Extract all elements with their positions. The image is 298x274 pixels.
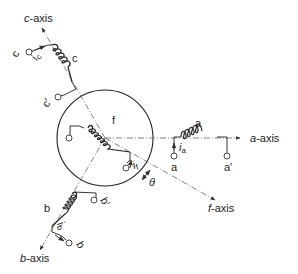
terminal-a-prime <box>224 153 230 159</box>
f-axis-label: f-axis <box>208 202 235 214</box>
terminal-a-prime-label: a′ <box>224 161 232 173</box>
terminal-c-prime-label: c′ <box>39 96 53 109</box>
synchronous-machine-diagram: a-axis c-axis b-axis f-axis a ia a a′ c … <box>0 0 298 274</box>
terminal-b-prime-label: b′ <box>98 195 112 208</box>
current-arrow-b <box>55 235 64 241</box>
winding-b-label: b <box>44 202 50 214</box>
f-axis-line <box>105 138 215 200</box>
current-arrow-c <box>35 46 45 50</box>
current-if-label: if <box>131 158 141 173</box>
terminal-b-label: b <box>74 239 87 250</box>
winding-c-label: c <box>72 52 78 64</box>
terminal-a-label: a <box>171 161 178 173</box>
winding-f <box>66 125 131 171</box>
terminal-f-end <box>123 165 129 171</box>
winding-a-label: a <box>195 117 202 129</box>
terminal-b <box>66 240 72 246</box>
theta-label: θ <box>149 176 155 188</box>
terminal-f-start <box>66 135 72 141</box>
winding-b <box>52 192 97 246</box>
b-axis-label: b-axis <box>20 252 50 264</box>
current-ia-label: ia <box>179 141 186 155</box>
winding-c <box>26 44 76 100</box>
terminal-c-label: c <box>8 48 21 59</box>
current-ib-label: ib <box>54 219 70 232</box>
winding-f-label: f <box>112 114 116 126</box>
terminal-c-prime <box>55 94 61 100</box>
a-axis-label: a-axis <box>250 132 280 144</box>
terminal-b-prime <box>91 197 97 203</box>
c-axis-label: c-axis <box>24 12 53 24</box>
terminal-a <box>171 153 177 159</box>
